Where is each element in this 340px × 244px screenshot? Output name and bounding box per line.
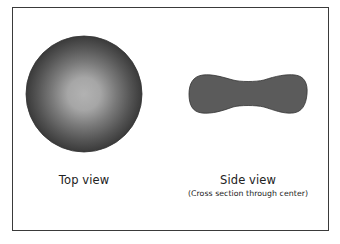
side-view-label: Side view [220,173,276,187]
side-view-sublabel: (Cross section through center) [188,189,308,198]
top-view-label: Top view [59,173,109,187]
side-view-cross-section [189,75,307,113]
diagram-canvas [0,0,340,244]
top-view-disc [26,36,142,152]
